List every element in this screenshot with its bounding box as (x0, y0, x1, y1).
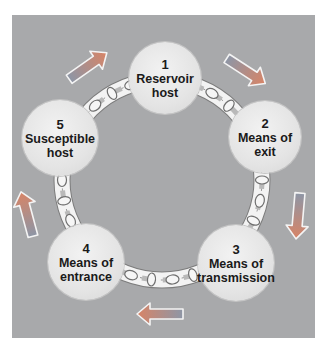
arrow-icon (10, 189, 43, 239)
node-number: 4 (82, 241, 89, 256)
node-number: 5 (56, 117, 63, 132)
node-reservoir-host: 1 Reservoir host (129, 42, 201, 114)
node-number: 2 (261, 116, 268, 131)
node-label: Susceptible (25, 132, 95, 146)
node-label: host (152, 86, 178, 100)
chain-of-infection-diagram: 1 Reservoir host 2 Means of exit 3 Means… (0, 0, 325, 351)
node-number: 3 (232, 242, 239, 257)
arrow-icon (221, 49, 272, 93)
node-label: host (47, 146, 73, 160)
node-means-of-transmission: 3 Means of transmission (198, 225, 274, 301)
arrow-icon (63, 44, 113, 88)
node-susceptible-host: 5 Susceptible host (22, 100, 98, 176)
node-label: Means of (238, 131, 292, 145)
node-label: entrance (60, 270, 112, 284)
node-label: transmission (197, 271, 275, 285)
node-label: Reservoir (136, 72, 194, 86)
node-label: Means of (209, 257, 263, 271)
node-number: 1 (161, 57, 168, 72)
arrow-icon (137, 303, 183, 325)
arrow-icon (285, 192, 311, 240)
node-label: Means of (59, 256, 113, 270)
node-means-of-entrance: 4 Means of entrance (48, 224, 124, 300)
node-means-of-exit: 2 Means of exit (229, 101, 301, 173)
node-label: exit (254, 145, 276, 159)
